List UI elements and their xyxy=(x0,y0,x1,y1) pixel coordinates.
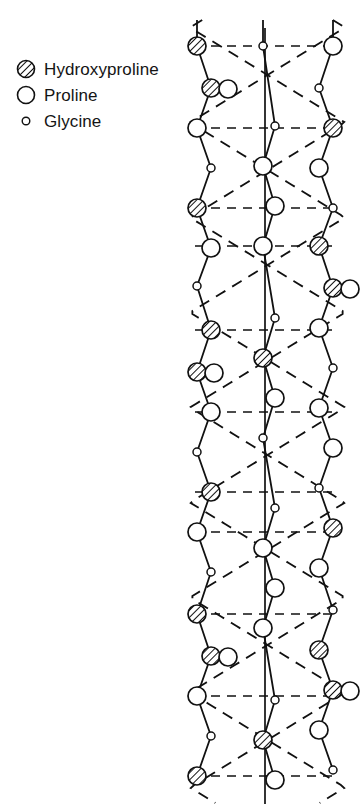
residue-hydroxyproline xyxy=(254,349,272,367)
residue-hydroxyproline xyxy=(202,483,220,501)
residue-proline xyxy=(341,682,359,700)
residue-proline xyxy=(310,721,328,739)
residue-hydroxyproline xyxy=(202,321,220,339)
residue-hydroxyproline xyxy=(202,647,220,665)
residue-hydroxyproline xyxy=(324,279,342,297)
residue-glycine xyxy=(315,484,323,492)
residue-glycine xyxy=(259,42,267,50)
residue-glycine xyxy=(271,504,279,512)
legend-label-proline: Proline xyxy=(44,87,98,104)
residue-hydroxyproline xyxy=(324,119,342,137)
residue-proline xyxy=(254,157,272,175)
residue-glycine xyxy=(207,732,215,740)
legend-label-glycine: Glycine xyxy=(44,113,101,130)
residue-proline xyxy=(310,399,328,417)
residue-hydroxyproline xyxy=(254,731,272,749)
residue-proline xyxy=(188,523,206,541)
residue-proline xyxy=(310,319,328,337)
residue-hydroxyproline xyxy=(188,767,206,785)
residue-glycine xyxy=(207,568,215,576)
hatched-circle-icon xyxy=(12,58,40,80)
residue-proline xyxy=(310,159,328,177)
residue-proline xyxy=(310,559,328,577)
legend-label-hydroxyproline: Hydroxyproline xyxy=(44,61,159,78)
residue-glycine xyxy=(193,282,201,290)
residue-proline xyxy=(188,687,206,705)
residue-proline xyxy=(324,37,342,55)
residue-proline xyxy=(266,579,284,597)
residue-proline xyxy=(202,239,220,257)
residue-proline xyxy=(254,619,272,637)
residue-hydroxyproline xyxy=(324,681,342,699)
legend-item-hydroxyproline: Hydroxyproline xyxy=(12,56,192,82)
residue-proline xyxy=(266,771,284,789)
residue-glycine xyxy=(329,204,337,212)
residue-hydroxyproline xyxy=(324,519,342,537)
residue-glycine xyxy=(329,606,337,614)
residue-hydroxyproline xyxy=(188,199,206,217)
residue-glycine xyxy=(329,364,337,372)
residue-proline xyxy=(341,280,359,298)
residue-hydroxyproline xyxy=(188,37,206,55)
legend: Hydroxyproline Proline Glycine xyxy=(12,56,192,134)
open-circle-icon xyxy=(12,84,40,106)
residue-hydroxyproline xyxy=(188,363,206,381)
residue-proline xyxy=(324,439,342,457)
residue-hydroxyproline xyxy=(202,79,220,97)
residue-glycine xyxy=(329,766,337,774)
small-circle-icon xyxy=(12,110,40,132)
residue-glycine xyxy=(259,434,267,442)
legend-item-proline: Proline xyxy=(12,82,192,108)
residue-proline xyxy=(266,389,284,407)
residue-proline xyxy=(219,80,237,98)
residue-proline xyxy=(219,648,237,666)
residue-hydroxyproline xyxy=(310,237,328,255)
residue-proline xyxy=(266,197,284,215)
residue-proline xyxy=(254,237,272,255)
residue-glycine xyxy=(271,122,279,130)
residue-glycine xyxy=(271,696,279,704)
residue-glycine xyxy=(315,84,323,92)
residue-glycine xyxy=(207,164,215,172)
residue-hydroxyproline xyxy=(188,605,206,623)
residue-hydroxyproline xyxy=(310,641,328,659)
residue-glycine xyxy=(193,448,201,456)
residue-glycine xyxy=(271,314,279,322)
residue-proline xyxy=(202,403,220,421)
residue-proline xyxy=(205,364,223,382)
legend-item-glycine: Glycine xyxy=(12,108,192,134)
residue-proline xyxy=(254,539,272,557)
